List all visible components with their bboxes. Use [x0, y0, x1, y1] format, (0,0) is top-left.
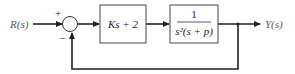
minus-sign: −: [59, 32, 65, 44]
plant-denominator: s²(s + p): [175, 25, 213, 38]
output-label: Y(s): [265, 18, 283, 31]
plant-numerator: 1: [191, 8, 197, 20]
controller-label: Ks + 2: [107, 18, 139, 30]
block-diagram: R(s) + − Ks + 2 1 s²(s + p) Y(s): [0, 0, 295, 74]
plus-sign: +: [55, 7, 61, 19]
summing-junction: [63, 17, 78, 32]
input-label: R(s): [9, 18, 29, 31]
